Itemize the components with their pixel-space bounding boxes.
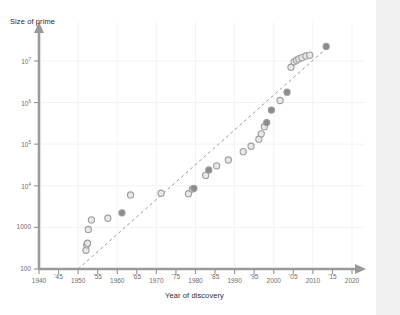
plot-canvas xyxy=(0,0,400,315)
y-tick-label: 1000 xyxy=(5,223,31,230)
y-tick-exponent: 6 xyxy=(28,99,31,104)
y-axis-title: Size of prime xyxy=(10,17,55,26)
tick-marks xyxy=(34,61,352,274)
y-tick-label: 100 xyxy=(5,265,31,272)
y-tick-label: 106 xyxy=(5,99,31,107)
data-points xyxy=(83,43,329,253)
y-tick-exponent: 4 xyxy=(28,182,31,187)
x-axis-title: Year of discovery xyxy=(165,291,224,300)
page-margin-strip xyxy=(376,0,400,315)
axes xyxy=(34,22,366,274)
y-tick-exponent: 5 xyxy=(28,140,31,145)
y-tick-exponent: 7 xyxy=(28,57,31,62)
trend-line xyxy=(78,46,328,269)
y-tick-label: 105 xyxy=(5,140,31,148)
x-tick-label: 2020 xyxy=(337,277,367,284)
scatter-chart: Size of prime Year of discovery 10010001… xyxy=(0,0,400,315)
y-tick-label: 104 xyxy=(5,182,31,190)
y-tick-label: 107 xyxy=(5,57,31,65)
